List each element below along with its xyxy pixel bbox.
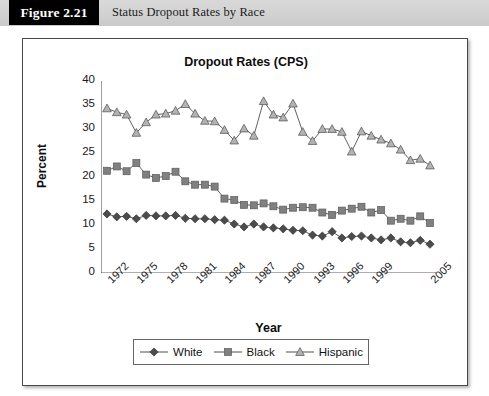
data-point-square <box>378 207 385 214</box>
y-tick-label: 0 <box>73 265 95 277</box>
marker-triangle <box>112 108 121 116</box>
marker-diamond <box>201 215 209 223</box>
data-point-diamond <box>289 226 297 234</box>
y-tick-label: 20 <box>73 169 95 181</box>
x-axis-tick-labels: 1972197519781981198419871990199319961999… <box>101 277 441 323</box>
marker-square <box>417 213 424 220</box>
data-point-triangle <box>357 127 366 135</box>
data-point-square <box>162 173 169 180</box>
data-point-diamond <box>201 215 209 223</box>
marker-diamond <box>250 220 258 228</box>
marker-square <box>387 217 394 224</box>
data-point-diamond <box>416 236 424 244</box>
data-point-square <box>260 200 267 207</box>
marker-diamond <box>308 231 316 239</box>
marker-diamond <box>171 211 179 219</box>
marker-diamond <box>191 215 199 223</box>
y-tick-label: 30 <box>73 121 95 133</box>
data-point-diamond <box>426 240 434 248</box>
marker-square <box>123 168 130 175</box>
marker-triangle <box>367 131 376 139</box>
y-tick-label: 40 <box>73 73 95 85</box>
marker-square <box>143 171 150 178</box>
marker-square <box>338 207 345 214</box>
data-point-diamond <box>406 239 414 247</box>
data-point-square <box>172 168 179 175</box>
marker-triangle <box>142 118 151 126</box>
data-point-triangle <box>377 135 386 143</box>
data-point-triangle <box>416 154 425 162</box>
y-tick-label: 35 <box>73 97 95 109</box>
data-point-diamond <box>367 234 375 242</box>
marker-diamond <box>152 212 160 220</box>
data-point-triangle <box>396 145 405 153</box>
data-point-triangle <box>298 128 307 136</box>
data-point-diamond <box>150 348 158 356</box>
marker-diamond <box>142 211 150 219</box>
marker-square <box>113 163 120 170</box>
marker-diamond <box>260 223 268 231</box>
data-point-diamond <box>279 225 287 233</box>
legend-item-white[interactable]: White <box>139 345 202 359</box>
marker-diamond <box>397 238 405 246</box>
data-point-diamond <box>113 213 121 221</box>
marker-triangle <box>396 145 405 153</box>
marker-diamond <box>220 216 228 224</box>
marker-triangle <box>347 147 356 155</box>
marker-diamond <box>406 239 414 247</box>
marker-square <box>289 204 296 211</box>
marker-square <box>270 203 277 210</box>
data-point-diamond <box>103 210 111 218</box>
marker-triangle <box>426 161 435 169</box>
data-point-diamond <box>230 220 238 228</box>
legend-item-hispanic[interactable]: Hispanic <box>285 345 363 359</box>
data-point-square <box>397 215 404 222</box>
data-point-triangle <box>103 104 112 112</box>
figure-number-badge: Figure 2.21 <box>9 0 99 25</box>
data-point-diamond <box>328 228 336 236</box>
data-point-square <box>338 207 345 214</box>
data-point-diamond <box>191 215 199 223</box>
legend-item-black[interactable]: Black <box>213 345 275 359</box>
data-point-square <box>104 167 111 174</box>
marker-square <box>172 168 179 175</box>
data-point-triangle <box>171 106 180 114</box>
marker-square <box>348 205 355 212</box>
marker-diamond <box>426 240 434 248</box>
data-point-diamond <box>299 227 307 235</box>
data-point-triangle <box>426 161 435 169</box>
marker-triangle <box>201 117 210 125</box>
data-point-diamond <box>348 232 356 240</box>
data-point-diamond <box>132 215 140 223</box>
marker-square <box>104 167 111 174</box>
data-point-triangle <box>367 131 376 139</box>
data-point-triangle <box>181 100 190 108</box>
legend-label: Black <box>247 346 275 358</box>
marker-triangle <box>250 131 259 139</box>
figure-caption: Status Dropout Rates by Race <box>112 0 265 25</box>
data-point-diamond <box>397 238 405 246</box>
marker-square <box>133 160 140 167</box>
chart-legend: WhiteBlackHispanic <box>133 339 369 365</box>
data-point-square <box>113 163 120 170</box>
marker-diamond <box>328 228 336 236</box>
y-tick-label: 15 <box>73 193 95 205</box>
marker-square <box>221 195 228 202</box>
y-tick-label: 10 <box>73 217 95 229</box>
marker-triangle <box>387 139 396 147</box>
data-point-triangle <box>259 97 268 105</box>
marker-triangle <box>377 135 386 143</box>
marker-square <box>358 203 365 210</box>
data-point-triangle <box>201 117 210 125</box>
data-point-diamond <box>260 223 268 231</box>
marker-square <box>250 202 257 209</box>
data-point-square <box>299 204 306 211</box>
marker-diamond <box>299 227 307 235</box>
marker-diamond <box>318 232 326 240</box>
y-tick-label: 5 <box>73 241 95 253</box>
marker-square <box>329 211 336 218</box>
legend-label: Hispanic <box>319 346 363 358</box>
marker-triangle <box>259 97 268 105</box>
marker-diamond <box>416 236 424 244</box>
y-axis-tick-labels: 0510152025303540 <box>69 81 95 273</box>
